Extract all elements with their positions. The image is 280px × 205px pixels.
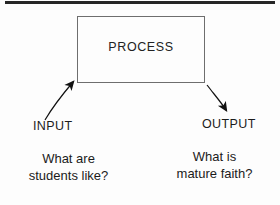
- output-arrow: [207, 85, 226, 110]
- output-question-text: What is mature faith?: [152, 148, 277, 182]
- diagram-canvas: PROCESS INPUT OUTPUT What are students l…: [0, 0, 280, 205]
- input-question-text: What are students like?: [6, 150, 131, 184]
- input-arrow: [45, 82, 73, 120]
- output-label: OUTPUT: [202, 117, 256, 131]
- input-label: INPUT: [33, 119, 73, 133]
